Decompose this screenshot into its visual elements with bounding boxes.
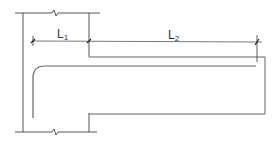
bottom-break-line — [15, 129, 97, 135]
l1-subscript: 1 — [64, 33, 68, 42]
reinforcement-diagram — [0, 0, 279, 143]
l2-letter: L — [168, 28, 175, 42]
l2-subscript: 2 — [175, 34, 179, 43]
dimension-label-l1: L1 — [57, 28, 68, 42]
rebar-hooked-bar — [33, 66, 256, 118]
top-break-line — [15, 10, 100, 16]
l1-letter: L — [57, 27, 64, 41]
dimension-label-l2: L2 — [168, 29, 179, 43]
